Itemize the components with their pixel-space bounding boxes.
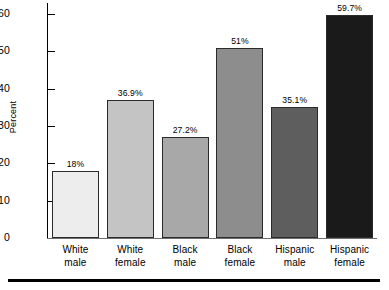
y-axis-title: Percent [8, 87, 18, 147]
bar: 36.9% [107, 100, 154, 238]
bar-value-label: 36.9% [118, 88, 143, 98]
x-category-line1: White [117, 244, 143, 255]
y-axis-tick: 50 [0, 51, 56, 52]
y-tick-mark [48, 126, 55, 127]
x-category-line1: Hispanic [330, 244, 369, 255]
x-category-line1: White [62, 244, 88, 255]
bar-chart: Percent 0102030405060 18%36.9%27.2%51%35… [0, 0, 389, 290]
y-axis-tick: 0 [0, 238, 56, 239]
x-category-line2: male [62, 257, 88, 270]
bar-rect [216, 48, 263, 238]
x-axis-category-label: Whitefemale [115, 244, 146, 269]
y-tick-label: 60 [0, 7, 10, 20]
bottom-divider [8, 279, 380, 282]
bar: 18% [52, 171, 99, 238]
x-axis-category-label: Blackfemale [225, 244, 256, 269]
x-axis-category-label: Blackmale [173, 244, 198, 269]
x-axis-category-label: Whitemale [62, 244, 88, 269]
bar-rect [162, 137, 209, 238]
bar: 27.2% [162, 137, 209, 238]
bar-value-label: 59.7% [337, 3, 362, 13]
y-tick-label: 20 [0, 156, 10, 169]
x-category-line2: female [330, 257, 369, 270]
bar-rect [271, 107, 318, 238]
y-tick-label: 30 [0, 119, 10, 132]
y-axis-tick: 20 [0, 163, 56, 164]
y-tick-label: 0 [4, 231, 10, 244]
y-axis-tick: 60 [0, 14, 56, 15]
y-tick-mark [48, 89, 55, 90]
x-category-line2: male [275, 257, 314, 270]
bar: 51% [216, 48, 263, 238]
y-tick-mark [48, 163, 55, 164]
x-axis-line [47, 238, 377, 239]
x-category-line1: Hispanic [275, 244, 314, 255]
bar-value-label: 27.2% [173, 125, 198, 135]
y-tick-label: 40 [0, 82, 10, 95]
bar-rect [326, 15, 373, 238]
y-axis-tick: 40 [0, 89, 56, 90]
bar-value-label: 35.1% [282, 95, 307, 105]
x-category-line1: Black [227, 244, 252, 255]
bar: 35.1% [271, 107, 318, 238]
bar-value-label: 51% [231, 36, 249, 46]
y-axis-tick: 10 [0, 201, 56, 202]
y-tick-mark [48, 14, 55, 15]
x-category-line1: Black [173, 244, 198, 255]
x-axis-category-label: Hispanicmale [275, 244, 314, 269]
y-axis-tick: 30 [0, 126, 56, 127]
x-category-line2: female [225, 257, 256, 270]
y-tick-label: 50 [0, 44, 10, 57]
bar-value-label: 18% [67, 159, 85, 169]
bar-rect [52, 171, 99, 238]
x-category-line2: male [173, 257, 198, 270]
x-axis-category-label: Hispanicfemale [330, 244, 369, 269]
y-axis-line [47, 3, 48, 239]
y-tick-mark [48, 51, 55, 52]
bar-rect [107, 100, 154, 238]
bar: 59.7% [326, 15, 373, 238]
x-category-line2: female [115, 257, 146, 270]
y-tick-label: 10 [0, 194, 10, 207]
